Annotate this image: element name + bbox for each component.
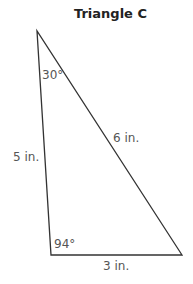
side-bottom-label: 3 in. bbox=[103, 259, 129, 273]
triangle-shape bbox=[0, 0, 193, 284]
side-hypotenuse-label: 6 in. bbox=[113, 131, 139, 145]
triangle-diagram: Triangle C 30° 94° 5 in. 6 in. 3 in. bbox=[0, 0, 193, 284]
angle-top-label: 30° bbox=[42, 68, 63, 82]
side-left-label: 5 in. bbox=[13, 150, 39, 164]
angle-bottom-left-label: 94° bbox=[54, 237, 75, 251]
